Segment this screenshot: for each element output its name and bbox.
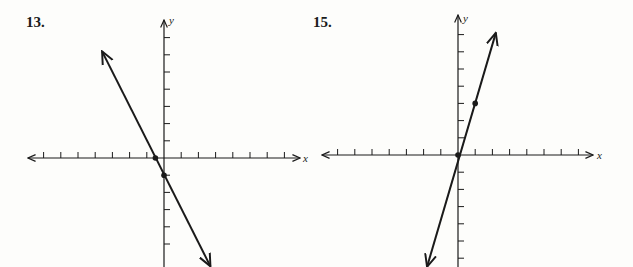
x-axis-label: x bbox=[302, 152, 308, 164]
graph-13: xy bbox=[28, 14, 308, 267]
marked-point bbox=[472, 101, 478, 107]
marked-point bbox=[153, 155, 159, 161]
y-axis-label: y bbox=[462, 12, 468, 24]
graphs-canvas: xy xy bbox=[0, 0, 633, 267]
x-axis-label: x bbox=[596, 149, 602, 161]
graph-15: xy bbox=[322, 12, 602, 267]
y-axis-label: y bbox=[168, 14, 174, 26]
marked-point bbox=[161, 172, 167, 178]
marked-point bbox=[455, 152, 461, 158]
plotted-line bbox=[427, 33, 496, 267]
